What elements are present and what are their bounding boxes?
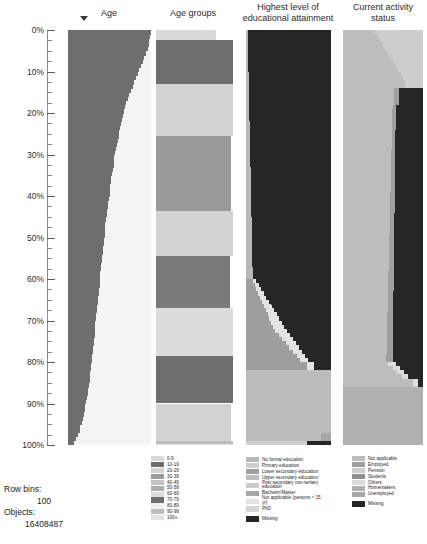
legend-label: 80-89 bbox=[167, 503, 179, 509]
axis-tick-label: 30% bbox=[27, 150, 44, 160]
legend-swatch bbox=[246, 475, 259, 480]
axis-tick-major bbox=[47, 155, 55, 156]
legend-label: Missing bbox=[368, 501, 384, 507]
legend-swatch bbox=[352, 492, 365, 497]
legend-item-age-group[interactable]: 100+ bbox=[151, 515, 179, 521]
axis-tick-minor bbox=[47, 123, 52, 124]
sort-descending-icon[interactable] bbox=[80, 16, 88, 21]
legend-education: No formal educationPrimary educationLowe… bbox=[246, 457, 324, 522]
legend-swatch bbox=[151, 480, 164, 485]
age-group-band bbox=[156, 211, 233, 257]
legend-swatch bbox=[246, 506, 259, 511]
legend-item-age-group[interactable]: 90-99 bbox=[151, 509, 179, 515]
legend-item-education[interactable]: Primary education bbox=[246, 463, 324, 469]
legend-item-education[interactable]: Not applicable (persons < 15 yr) bbox=[246, 496, 324, 506]
legend-swatch bbox=[352, 468, 365, 473]
axis-tick-label: 50% bbox=[27, 233, 44, 243]
axis-tick-major bbox=[47, 445, 55, 446]
axis-tick-minor bbox=[47, 310, 52, 311]
legend-item-age-group[interactable]: 80-89 bbox=[151, 503, 179, 509]
legend-swatch bbox=[352, 486, 365, 491]
axis-tick-minor bbox=[47, 134, 52, 135]
axis-tick-minor bbox=[47, 300, 52, 301]
axis-tick-major bbox=[47, 113, 55, 114]
legend-label: 20-29 bbox=[167, 468, 179, 474]
axis-tick-major bbox=[47, 30, 55, 31]
legend-label: Missing bbox=[262, 516, 278, 522]
legend-item-education-missing[interactable]: Missing bbox=[246, 516, 324, 522]
legend-swatch bbox=[352, 474, 365, 479]
legend-label: Not applicable bbox=[368, 456, 397, 462]
legend-item-activity[interactable]: Unemployed bbox=[352, 491, 397, 497]
legend-item-activity[interactable]: Homemakers bbox=[352, 485, 397, 491]
column-activity-status[interactable] bbox=[343, 30, 423, 445]
legend-swatch bbox=[151, 462, 164, 467]
legend-item-activity[interactable]: Students bbox=[352, 474, 397, 480]
legend-swatch bbox=[246, 469, 259, 474]
legend-item-age-group[interactable]: 30-39 bbox=[151, 474, 179, 480]
column-header-age-groups: Age groups bbox=[150, 8, 236, 19]
legend-item-education[interactable]: PhD bbox=[246, 506, 324, 512]
axis-tick-minor bbox=[47, 352, 52, 353]
legend-label: Students bbox=[368, 474, 386, 480]
legend-item-education[interactable]: Post secondary non-tertiary education bbox=[246, 481, 324, 491]
column-age[interactable] bbox=[68, 30, 151, 445]
legend-item-education[interactable]: Lower secondary education bbox=[246, 469, 324, 475]
legend-label: PhD bbox=[262, 506, 271, 512]
legend-item-activity-missing[interactable]: Missing bbox=[352, 501, 397, 507]
column-header-education: Highest level of educational attainment bbox=[240, 2, 336, 24]
axis-tick-minor bbox=[47, 51, 52, 52]
legend-label: Employed bbox=[368, 462, 388, 468]
legend-item-activity[interactable]: Employed bbox=[352, 462, 397, 468]
age-group-band bbox=[156, 136, 231, 211]
legend-swatch bbox=[151, 474, 164, 479]
axis-tick-minor bbox=[47, 82, 52, 83]
legend-item-activity[interactable]: Pension bbox=[352, 468, 397, 474]
legend-label: 70-79 bbox=[167, 497, 179, 503]
legend-item-age-group[interactable]: 70-79 bbox=[151, 497, 179, 503]
education-row-segment bbox=[307, 441, 331, 445]
legend-label: Primary education bbox=[262, 463, 299, 469]
axis-tick-minor bbox=[47, 61, 52, 62]
axis-tick-minor bbox=[47, 414, 52, 415]
objects-value: 16408487 bbox=[4, 519, 84, 531]
axis-tick-minor bbox=[47, 227, 52, 228]
legend-item-age-group[interactable]: 50-59 bbox=[151, 485, 179, 491]
legend-item-activity[interactable]: Others bbox=[352, 480, 397, 486]
axis-tick-major bbox=[47, 238, 55, 239]
column-header-activity-line2: status bbox=[340, 13, 426, 24]
legend-activity-status: Not applicableEmployedPensionStudentsOth… bbox=[352, 456, 397, 507]
age-group-band bbox=[156, 356, 233, 404]
legend-item-age-group[interactable]: 60-69 bbox=[151, 491, 179, 497]
legend-label: 0-9 bbox=[167, 456, 174, 462]
legend-swatch bbox=[246, 491, 259, 496]
axis-tick-label: 90% bbox=[27, 399, 44, 409]
legend-item-age-group[interactable]: 40-49 bbox=[151, 480, 179, 486]
legend-item-age-group[interactable]: 10-19 bbox=[151, 462, 179, 468]
axis-tick-minor bbox=[47, 258, 52, 259]
legend-swatch bbox=[151, 468, 164, 473]
legend-item-activity[interactable]: Not applicable bbox=[352, 456, 397, 462]
legend-label: 10-19 bbox=[167, 462, 179, 468]
axis-tick-minor bbox=[47, 331, 52, 332]
age-group-band bbox=[156, 444, 233, 445]
axis-tick-minor bbox=[47, 92, 52, 93]
legend-label: Unemployed bbox=[368, 491, 394, 497]
axis-tick-major bbox=[47, 279, 55, 280]
legend-age-groups: 0-910-1920-2930-3940-4950-5960-6970-7980… bbox=[151, 456, 179, 521]
legend-item-age-group[interactable]: 20-29 bbox=[151, 468, 179, 474]
column-age-groups[interactable] bbox=[156, 30, 233, 445]
column-education[interactable] bbox=[246, 30, 331, 445]
legend-swatch bbox=[151, 486, 164, 491]
row-bins-value: 100 bbox=[4, 496, 84, 508]
legend-item-education[interactable]: No formal education bbox=[246, 457, 324, 463]
legend-label: 60-69 bbox=[167, 491, 179, 497]
legend-label: Others bbox=[368, 480, 382, 486]
age-group-band bbox=[156, 40, 233, 84]
axis-tick-minor bbox=[47, 424, 52, 425]
legend-swatch bbox=[352, 462, 365, 467]
axis-tick-minor bbox=[47, 186, 52, 187]
legend-item-age-group[interactable]: 0-9 bbox=[151, 456, 179, 462]
column-header-activity-line1: Current activity bbox=[340, 2, 426, 13]
legend-label: 50-59 bbox=[167, 485, 179, 491]
